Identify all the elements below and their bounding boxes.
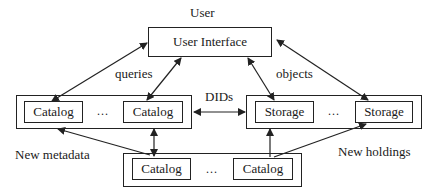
queries-label: queries: [115, 66, 153, 82]
user-interface-label: User Interface: [173, 34, 247, 50]
catalog-box-1: Catalog: [24, 101, 83, 123]
objects-label: objects: [276, 66, 313, 82]
storage-label: Storage: [265, 104, 305, 120]
storage-box-1: Storage: [255, 101, 314, 123]
user-label: User: [190, 5, 215, 21]
catalog-ellipsis: ...: [97, 104, 109, 119]
catalog-box-2: Catalog: [123, 101, 183, 123]
catalog-label: Catalog: [33, 104, 73, 120]
new-metadata-label: New metadata: [15, 147, 90, 163]
user-interface-box: User Interface: [148, 27, 272, 57]
catalog-label: Catalog: [243, 161, 283, 177]
dids-label: DIDs: [205, 89, 233, 105]
storage-label: Storage: [364, 104, 404, 120]
bottom-catalog-box-2: Catalog: [233, 158, 293, 180]
bottom-catalog-box-1: Catalog: [132, 158, 191, 180]
catalog-label: Catalog: [141, 161, 181, 177]
bottom-catalog-ellipsis: ...: [206, 162, 218, 177]
new-holdings-label: New holdings: [338, 144, 411, 160]
catalog-label: Catalog: [133, 104, 173, 120]
storage-box-2: Storage: [355, 101, 413, 123]
arrow-ui-storage-1: [248, 58, 274, 100]
storage-ellipsis: ...: [328, 104, 340, 119]
